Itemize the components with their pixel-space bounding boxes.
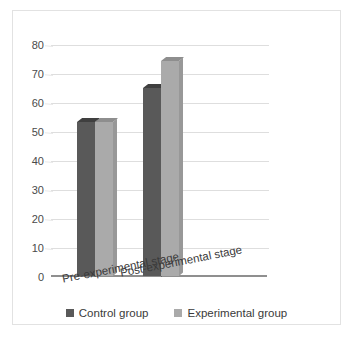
y-tick-30: 30 [32,185,44,196]
legend-label-control: Control group [79,307,149,319]
bar-side-facet [179,58,183,276]
chart-container: 80 70 60 50 40 30 20 10 0 [0,0,354,338]
experimental-swatch-icon [174,309,182,317]
y-tick-0: 0 [38,272,44,283]
bar-side-facet [113,119,117,276]
plot-area: 80 70 60 50 40 30 20 10 0 [51,45,269,277]
y-tick-70: 70 [32,69,44,80]
y-tick-50: 50 [32,127,44,138]
bar-face [77,122,95,276]
gridline-80 [51,45,269,46]
y-tick-60: 60 [32,98,44,109]
chart-frame: 80 70 60 50 40 30 20 10 0 [12,10,341,325]
bar-face [143,88,161,277]
y-tick-20: 20 [32,214,44,225]
bar-face [95,122,113,276]
control-swatch-icon [66,309,74,317]
bar-control-post[interactable] [143,88,161,277]
bar-face [161,61,179,276]
legend-entry-experimental[interactable]: Experimental group [174,307,287,319]
y-tick-40: 40 [32,156,44,167]
legend-label-experimental: Experimental group [187,307,287,319]
y-tick-80: 80 [32,40,44,51]
legend-entry-control[interactable]: Control group [66,307,149,319]
bar-control-pre[interactable] [77,122,95,276]
chart-legend: Control group Experimental group [13,307,340,319]
bar-experimental-post[interactable] [161,61,179,276]
y-tick-10: 10 [32,243,44,254]
bar-experimental-pre[interactable] [95,122,113,276]
gridline-70 [51,74,269,75]
